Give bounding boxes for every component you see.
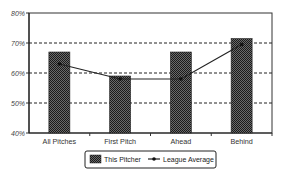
legend-bar-label: This Pitcher — [104, 156, 142, 163]
bar-ahead — [170, 52, 191, 133]
x-tick-label: Behind — [230, 137, 252, 146]
league-average-marker — [58, 62, 62, 66]
x-tick-label: First Pitch — [104, 137, 136, 146]
bar-behind — [231, 39, 252, 134]
legend-line-label: League Average — [163, 156, 214, 164]
league-average-marker — [118, 77, 122, 81]
league-average-marker — [179, 77, 183, 81]
y-tick-label: 40% — [11, 130, 25, 137]
legend-bar-swatch — [90, 155, 101, 163]
y-tick-label: 60% — [11, 70, 25, 77]
x-tick-label: Ahead — [170, 137, 191, 146]
y-tick-label: 70% — [11, 40, 25, 47]
y-tick-label: 80% — [11, 10, 25, 17]
bar-first-pitch — [110, 76, 131, 133]
chart: 40%50%60%70%80%All PitchesFirst PitchAhe… — [0, 0, 287, 172]
plot-area: 40%50%60%70%80%All PitchesFirst PitchAhe… — [11, 10, 272, 147]
y-tick-label: 50% — [11, 100, 25, 107]
legend: This Pitcher League Average — [85, 151, 216, 168]
legend-line-marker — [152, 157, 156, 161]
league-average-marker — [240, 43, 244, 47]
x-tick-label: All Pitches — [43, 137, 77, 146]
